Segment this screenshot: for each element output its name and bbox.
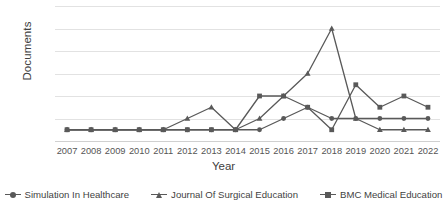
x-tick-label: 2022 — [411, 145, 445, 157]
square-marker-icon — [113, 127, 118, 132]
square-marker-icon — [137, 127, 142, 132]
legend-label: Journal Of Surgical Education — [171, 189, 298, 200]
square-marker-icon — [233, 127, 238, 132]
chart-legend: Simulation In HealthcareJournal Of Surgi… — [0, 186, 447, 203]
series-line — [67, 85, 428, 130]
triangle-marker-icon — [329, 26, 335, 31]
triangle-marker-icon — [209, 104, 215, 109]
square-marker-icon — [353, 82, 358, 87]
circle-marker-icon — [426, 116, 431, 121]
series-line — [67, 29, 428, 130]
series-lines — [55, 6, 440, 141]
square-marker-icon — [89, 127, 94, 132]
square-marker-icon — [329, 127, 334, 132]
series-journal-of-surgical-education — [64, 26, 431, 132]
legend-label: Simulation In Healthcare — [25, 189, 130, 200]
square-marker-icon — [281, 94, 286, 99]
legend-item[interactable]: Simulation In Healthcare — [5, 189, 130, 200]
triangle-marker-icon — [305, 71, 311, 76]
square-marker-icon — [320, 190, 336, 199]
x-axis-title: Year — [0, 160, 447, 172]
square-marker-icon — [257, 94, 262, 99]
square-marker-icon — [402, 94, 407, 99]
x-axis-tick-labels: 2007200820092010201120122013201420152016… — [55, 145, 440, 159]
square-marker-icon — [185, 127, 190, 132]
square-marker-icon — [426, 105, 431, 110]
square-marker-icon — [377, 105, 382, 110]
square-marker-icon — [209, 127, 214, 132]
legend-item[interactable]: Journal Of Surgical Education — [151, 189, 298, 200]
circle-marker-icon — [402, 116, 407, 121]
circle-marker-icon — [257, 127, 262, 132]
circle-marker-icon — [5, 190, 21, 199]
circle-marker-icon — [281, 116, 286, 121]
square-marker-icon — [305, 105, 310, 110]
line-chart: Documents 024681012 20072008200920102011… — [0, 0, 447, 205]
circle-marker-icon — [377, 116, 382, 121]
square-marker-icon — [161, 127, 166, 132]
legend-label: BMC Medical Education — [340, 189, 442, 200]
x-axis-line — [55, 141, 440, 142]
plot-area — [55, 6, 440, 141]
circle-marker-icon — [329, 116, 334, 121]
triangle-marker-icon — [151, 190, 167, 199]
square-marker-icon — [65, 127, 70, 132]
legend-item[interactable]: BMC Medical Education — [320, 189, 442, 200]
